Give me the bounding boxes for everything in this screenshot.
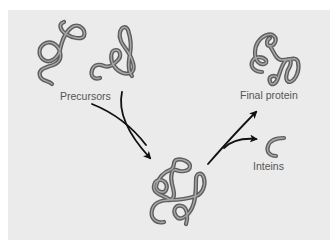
precursor-protein-1 xyxy=(40,22,85,84)
label-final-protein: Final protein xyxy=(240,89,298,101)
intein-fragment xyxy=(267,138,284,156)
intermediate-protein xyxy=(152,159,205,224)
precursor-protein-2 xyxy=(91,27,133,78)
label-precursors: Precursors xyxy=(60,90,111,102)
diagram-artwork xyxy=(0,0,335,249)
label-inteins: Inteins xyxy=(253,160,284,172)
final-protein xyxy=(252,34,299,84)
